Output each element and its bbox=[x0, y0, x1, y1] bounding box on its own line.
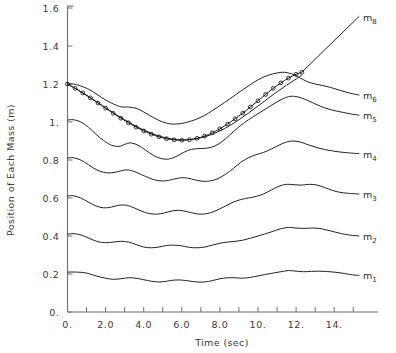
series-label-base: m bbox=[363, 189, 372, 200]
series-labels-group: m8m6m5m4m3m2m1 bbox=[363, 12, 377, 285]
y-tick-label-0: 0. bbox=[49, 307, 59, 318]
series-label-base: m bbox=[363, 90, 372, 101]
series-label-m1: m1 bbox=[363, 270, 377, 284]
y-tick-label-0_4: 0.4 bbox=[43, 231, 60, 242]
y-tick-label-1_4: 1.4 bbox=[43, 41, 60, 52]
series-label-base: m bbox=[363, 149, 372, 160]
series-label-m5: m5 bbox=[363, 110, 377, 124]
x-tick-label-14: 14. bbox=[326, 319, 343, 330]
curves-group bbox=[68, 17, 359, 283]
series-label-subscript: 8 bbox=[372, 18, 376, 26]
x-tick-label-4: 4.0 bbox=[135, 319, 152, 330]
series-label-base: m bbox=[363, 12, 372, 23]
series-label-base: m bbox=[363, 110, 372, 121]
x-tick-label-0: 0. bbox=[62, 319, 72, 330]
series-label-subscript: 3 bbox=[372, 195, 376, 203]
y-tick-label-1_6: 1.6 bbox=[43, 3, 60, 14]
tick-labels-group: 0.0.20.40.60.81.1.21.41.60.2.04.06.08.01… bbox=[43, 3, 343, 331]
series-label-subscript: 1 bbox=[372, 276, 376, 284]
x-tick-label-8: 8.0 bbox=[211, 319, 228, 330]
curve-m3 bbox=[68, 184, 359, 214]
series-label-base: m bbox=[363, 231, 372, 242]
y-tick-label-0_2: 0.2 bbox=[43, 269, 60, 280]
curve-m6 bbox=[68, 72, 359, 124]
y-axis-title: Position of Each Mass (m) bbox=[5, 104, 16, 236]
x-tick-label-10: 10. bbox=[250, 319, 267, 330]
chart-figure: 0.0.20.40.60.81.1.21.41.60.2.04.06.08.01… bbox=[0, 0, 396, 353]
series-label-m3: m3 bbox=[363, 189, 377, 203]
curve-m7 bbox=[68, 75, 302, 140]
axes-group bbox=[68, 6, 379, 312]
curve-m2 bbox=[68, 227, 359, 247]
chart-plot-area: 0.0.20.40.60.81.1.21.41.60.2.04.06.08.01… bbox=[0, 0, 396, 353]
x-tick-label-6: 6.0 bbox=[173, 319, 190, 330]
series-label-subscript: 4 bbox=[372, 155, 377, 163]
series-label-base: m bbox=[363, 270, 372, 281]
series-label-m6: m6 bbox=[363, 90, 377, 104]
series-label-m4: m4 bbox=[363, 149, 377, 163]
curve-m1 bbox=[68, 271, 359, 283]
series-label-subscript: 6 bbox=[372, 96, 377, 104]
y-tick-label-1: 1. bbox=[49, 117, 59, 128]
y-tick-label-0_8: 0.8 bbox=[43, 155, 60, 166]
ticks-group bbox=[68, 8, 354, 312]
y-tick-label-0_6: 0.6 bbox=[43, 193, 60, 204]
series-label-m8: m8 bbox=[363, 12, 377, 26]
y-tick-label-1_2: 1.2 bbox=[43, 79, 60, 90]
x-axis-title: Time (sec) bbox=[194, 337, 249, 348]
series-label-subscript: 2 bbox=[372, 237, 376, 245]
series-label-subscript: 5 bbox=[372, 116, 376, 124]
marker-circles-group bbox=[66, 70, 304, 142]
curve-m8-tail-line bbox=[302, 17, 359, 73]
x-tick-label-12: 12. bbox=[288, 319, 305, 330]
x-tick-label-2: 2.0 bbox=[97, 319, 114, 330]
series-label-m2: m2 bbox=[363, 231, 377, 245]
curve-m5 bbox=[68, 96, 359, 159]
